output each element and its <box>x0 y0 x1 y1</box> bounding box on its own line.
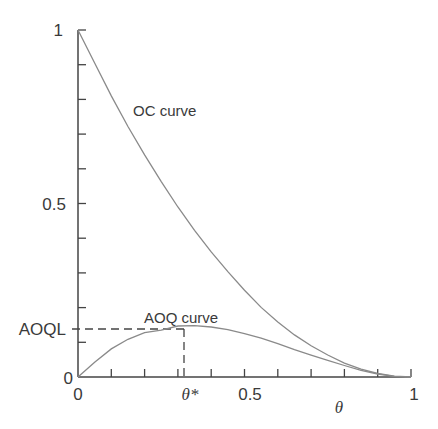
y-tick-label-aoql: AOQL <box>19 320 66 339</box>
x-axis-title: θ <box>335 398 343 417</box>
chart-canvas: 1 0.5 AOQL 0 0 θ* 0.5 1 θ OC curve AOQ c… <box>0 0 438 429</box>
aoq-curve-label: AOQ curve <box>144 309 218 326</box>
y-tick-label-0.5: 0.5 <box>42 195 66 214</box>
x-tick-label-1: 1 <box>409 385 418 404</box>
x-tick-label-theta-star: θ* <box>182 385 199 404</box>
y-ticks <box>78 30 86 342</box>
y-tick-label-0: 0 <box>64 369 73 388</box>
x-tick-label-0.5: 0.5 <box>238 385 262 404</box>
oc-curve-line <box>78 30 411 377</box>
y-tick-label-1: 1 <box>54 21 63 40</box>
x-tick-label-0: 0 <box>73 385 82 404</box>
oc-curve-label: OC curve <box>133 102 196 119</box>
